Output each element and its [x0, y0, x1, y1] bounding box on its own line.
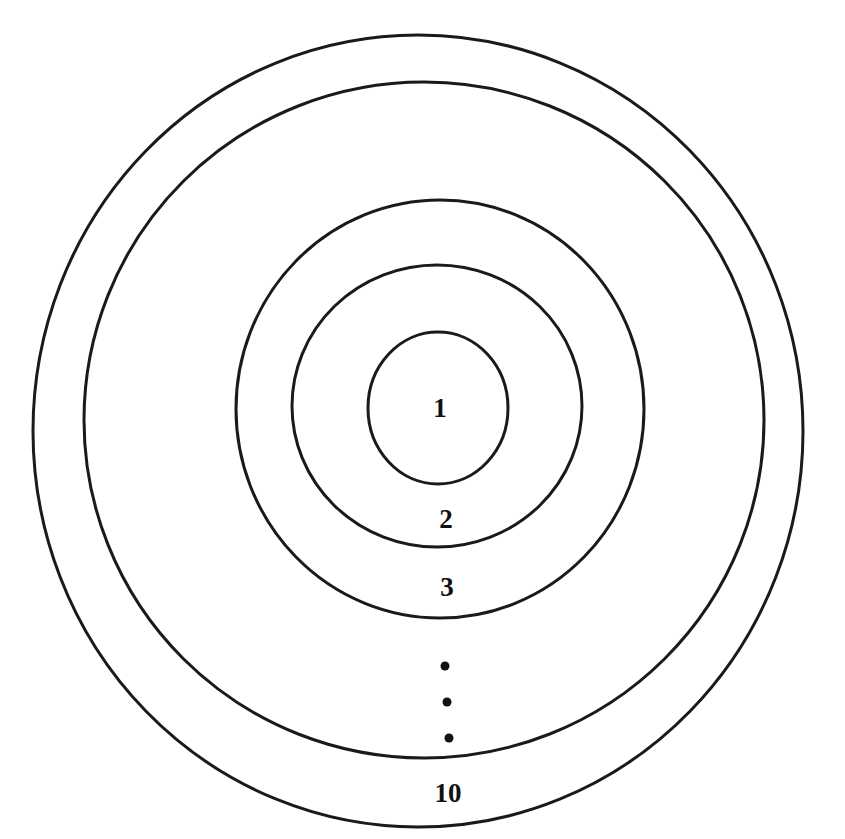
diagram-canvas: 12310 [0, 0, 845, 839]
ellipsis-dots [441, 662, 454, 743]
rings-layer [33, 35, 803, 827]
ellipsis-dot [445, 734, 454, 743]
label-3: 3 [440, 572, 454, 602]
label-2: 2 [439, 504, 453, 534]
label-1: 1 [433, 393, 447, 423]
ring-5 [33, 35, 803, 827]
ellipsis-dot [441, 662, 450, 671]
concentric-diagram: 12310 [0, 0, 845, 839]
label-10: 10 [435, 778, 462, 808]
ellipsis-dot [443, 698, 452, 707]
ring-4 [84, 82, 764, 758]
ring-labels: 12310 [433, 393, 461, 808]
